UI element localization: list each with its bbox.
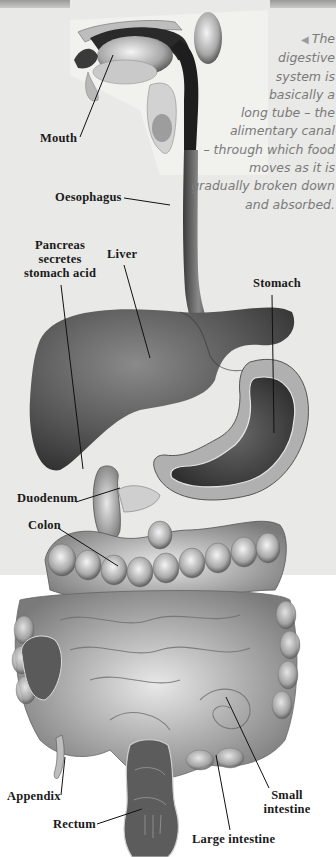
caption-text: ◀The digestive system is basically a lon… [182,30,335,214]
label-pancreas: Pancreas secretes stomach acid [22,238,98,280]
label-stomach: Stomach [253,276,301,290]
label-large-intestine: Large intestine [192,832,275,846]
duodenum-shape [93,466,120,541]
label-small-intestine: Small intestine [262,788,312,816]
label-liver: Liver [107,247,137,261]
label-duodenum: Duodenum [17,491,78,505]
rectum-shape [124,740,178,857]
label-appendix: Appendix [7,789,61,803]
label-rectum: Rectum [53,817,96,831]
label-oesophagus: Oesophagus [55,190,122,204]
caption-arrow-icon: ◀ [301,34,309,45]
label-mouth: Mouth [40,131,77,145]
label-colon: Colon [28,518,61,532]
